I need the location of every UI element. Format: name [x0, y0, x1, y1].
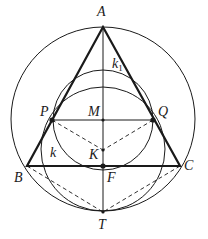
label-T: T [98, 218, 106, 232]
label-k1: k1 [112, 57, 123, 73]
label-B: B [14, 171, 23, 185]
label-M: M [88, 105, 100, 119]
diagram-canvas [0, 0, 208, 239]
label-K: K [89, 148, 98, 162]
label-C: C [184, 159, 193, 173]
point-M [101, 118, 104, 121]
dashed-BT [27, 166, 103, 212]
label-k1-subscript: 1 [118, 63, 123, 73]
point-F [100, 163, 105, 168]
label-k: k [50, 146, 56, 160]
label-F: F [107, 171, 116, 185]
label-P: P [40, 105, 49, 119]
point-Q [150, 117, 155, 122]
label-Q: Q [158, 105, 168, 119]
point-P [49, 117, 54, 122]
point-K [101, 148, 104, 151]
point-T [101, 210, 104, 213]
label-A: A [97, 5, 106, 19]
geometry-figure: A B C P Q M K F T k k1 [0, 0, 208, 239]
